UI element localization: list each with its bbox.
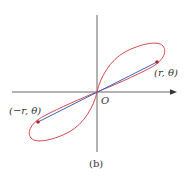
point-r-theta [155, 60, 159, 64]
point-r-theta-label: (r, θ) [154, 68, 178, 78]
point-neg-r-theta-label: (−r, θ) [9, 106, 41, 116]
curve-lobe-lower [29, 92, 97, 141]
point-neg-r-theta [36, 120, 40, 124]
diagram-svg [0, 0, 185, 180]
x-axis-arrow-icon [170, 89, 177, 95]
figure-caption: (b) [89, 159, 103, 169]
polar-diagram: O (r, θ) (−r, θ) (b) [0, 0, 185, 180]
origin-label: O [101, 96, 109, 106]
